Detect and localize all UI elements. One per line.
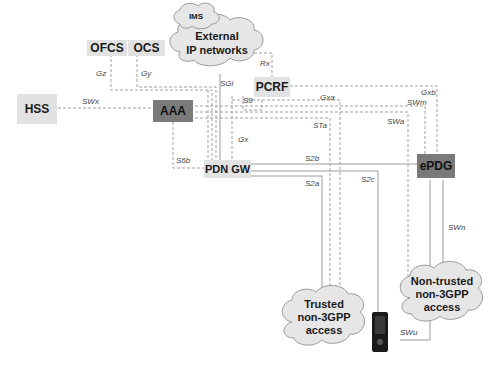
- label-gxb: Gxb: [421, 88, 436, 97]
- untrusted-label-line2: non-3GPP: [415, 288, 468, 300]
- diagram-canvas: Gz Gy SWx Rx SGi S9 Gxa Gxb SWm SWa STa …: [0, 0, 492, 368]
- label-sgi: SGi: [220, 79, 234, 88]
- label-swu: SWu: [400, 328, 418, 337]
- label-s6b: S6b: [176, 156, 191, 165]
- label-swn: SWn: [448, 223, 466, 232]
- ocs-node: OCS: [128, 40, 165, 56]
- untrusted-label-line3: access: [424, 301, 461, 313]
- label-swa: SWa: [387, 117, 405, 126]
- aaa-node: AAA: [153, 100, 193, 122]
- trusted-label-line2: non-3GPP: [297, 311, 350, 323]
- trusted-label-line3: access: [306, 324, 343, 336]
- label-rx: Rx: [260, 59, 271, 68]
- external-label-line2: IP networks: [186, 44, 248, 56]
- external-label-line1: External: [195, 30, 238, 42]
- untrusted-label-line1: Non-trusted: [411, 275, 473, 287]
- label-swm: SWm: [407, 98, 427, 107]
- network-architecture-diagram: Gz Gy SWx Rx SGi S9 Gxa Gxb SWm SWa STa …: [0, 0, 492, 368]
- label-gy: Gy: [141, 69, 152, 78]
- trusted-non3gpp-cloud: Trusted non-3GPP access: [282, 285, 364, 345]
- trusted-label-line1: Trusted: [304, 298, 344, 310]
- label-sta: STa: [313, 121, 327, 130]
- label-s2c: S2c: [361, 175, 375, 184]
- label-s2b: S2b: [305, 154, 320, 163]
- untrusted-non3gpp-cloud: Non-trusted non-3GPP access: [400, 261, 482, 321]
- mobile-phone-icon: [372, 312, 388, 352]
- label-s2a: S2a: [305, 179, 320, 188]
- ims-label: IMS: [189, 12, 204, 21]
- pcrf-node: PCRF: [254, 77, 290, 97]
- label-s9: S9: [243, 96, 253, 105]
- label-gz: Gz: [96, 69, 106, 78]
- ofcs-node: OFCS: [87, 40, 127, 56]
- label-swx: SWx: [82, 97, 100, 106]
- label-gx: Gx: [238, 135, 249, 144]
- label-gxa: Gxa: [320, 93, 335, 102]
- pdn-gw-node: PDN GW: [204, 160, 251, 178]
- hss-node: HSS: [17, 94, 57, 124]
- epdg-node: ePDG: [417, 154, 455, 178]
